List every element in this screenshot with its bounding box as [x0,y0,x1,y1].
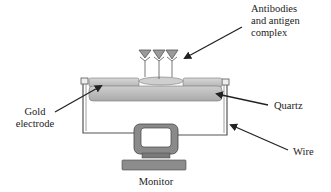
label-gold-line2: electrode [14,118,56,130]
antibody-1 [139,50,151,77]
quartz-crystal [89,86,222,101]
antibody-2 [153,50,165,79]
biosensor-diagram: Antibodies and antigen complex Gold elec… [0,0,331,192]
label-monitor: Monitor [134,176,178,188]
label-antibodies: Antibodies and antigen complex [251,3,300,39]
arrow-wire [231,125,288,150]
label-gold-line1: Gold [14,106,56,118]
label-quartz: Quartz [274,100,303,112]
antibody-antigen-complex [139,50,178,79]
arrow-antibodies [185,27,242,58]
label-wire: Wire [293,146,314,158]
label-antibodies-line2: and antigen [251,15,300,27]
label-gold-electrode: Gold electrode [14,106,56,130]
gold-electrode [89,77,222,87]
arrow-quartz [217,94,268,105]
monitor-icon [122,124,186,170]
label-antibodies-line1: Antibodies [251,3,300,15]
antibody-3 [166,50,178,77]
label-antibodies-line3: complex [251,27,300,39]
